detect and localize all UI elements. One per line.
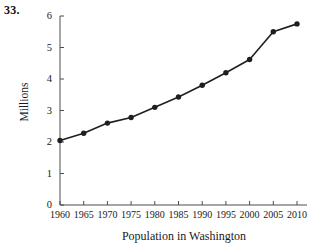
y-tick-label: 6 [36,11,52,22]
data-point [247,57,252,62]
data-point [200,83,205,88]
data-point [223,70,228,75]
x-axis-ticks [60,201,297,205]
axes [60,16,307,205]
data-point [176,94,181,99]
figure-33: 33. Millions Population in Washington 01… [0,0,323,248]
y-tick-label: 1 [36,169,52,180]
y-axis-ticks [60,16,64,205]
data-point [81,130,86,135]
y-tick-label: 3 [36,106,52,117]
y-tick-label: 5 [36,43,52,54]
data-point [105,120,110,125]
data-line [60,24,297,141]
x-tick-label: 2010 [280,210,314,220]
y-tick-label: 2 [36,137,52,148]
data-point [294,21,299,26]
data-point [128,115,133,120]
data-points [57,21,299,143]
data-point [152,105,157,110]
data-point [57,138,62,143]
data-point [271,29,276,34]
y-tick-label: 4 [36,74,52,85]
line-chart: Millions Population in Washington 012345… [0,0,323,248]
